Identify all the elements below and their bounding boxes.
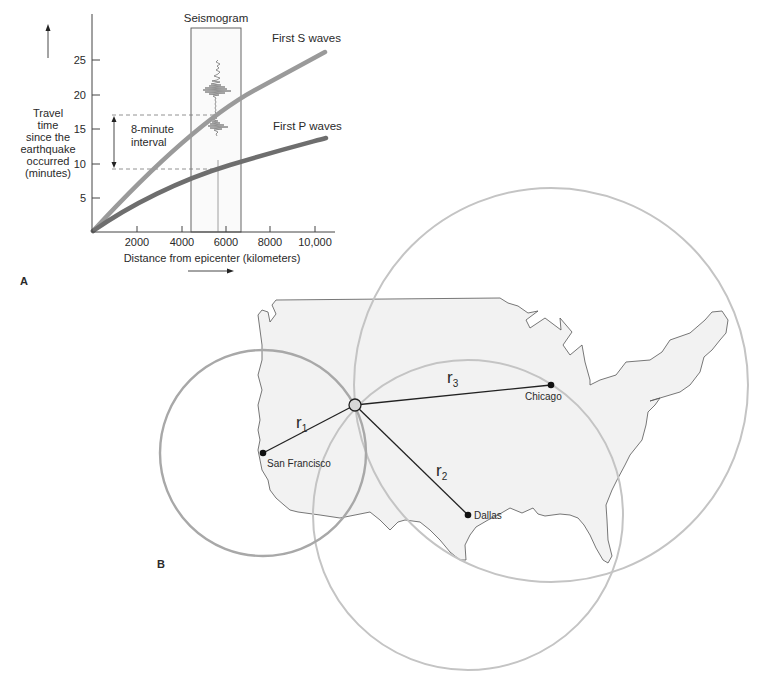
arrow-down-icon xyxy=(112,162,117,168)
y-tick-label: 20 xyxy=(74,89,86,101)
s-wave-label: First S waves xyxy=(272,32,341,44)
x-tick-label: 8000 xyxy=(258,236,282,248)
chicago-label: Chicago xyxy=(525,391,562,402)
figure-canvas: Seismogram 8-minute interval First S wav… xyxy=(0,0,762,688)
p-wave-label: First P waves xyxy=(273,120,342,132)
y-tick-label: 15 xyxy=(74,123,86,135)
arrow-up-icon xyxy=(112,116,117,122)
svg-text:Travel: Travel xyxy=(33,107,63,119)
us-map-outline xyxy=(258,298,728,563)
svg-text:occurred: occurred xyxy=(27,155,70,167)
san-francisco-label: San Francisco xyxy=(267,458,331,469)
svg-text:since the: since the xyxy=(26,131,70,143)
interval-label-line2: interval xyxy=(131,136,166,148)
y-axis-label: Travel time since the earthquake occurre… xyxy=(20,107,75,179)
panel-b-label: B xyxy=(157,558,165,570)
x-axis-label: Distance from epicenter (kilometers) xyxy=(124,252,301,264)
svg-text:(minutes): (minutes) xyxy=(25,167,71,179)
y-ticks: 5 10 15 20 25 xyxy=(74,54,100,204)
x-tick-label: 4000 xyxy=(170,236,194,248)
svg-text:time: time xyxy=(38,119,59,131)
y-tick-label: 25 xyxy=(74,54,86,66)
san-francisco-dot xyxy=(260,450,267,457)
dallas-dot xyxy=(465,512,472,519)
svg-text:earthquake: earthquake xyxy=(20,143,75,155)
y-tick-label: 10 xyxy=(74,158,86,170)
dallas-label: Dallas xyxy=(474,510,502,521)
epicenter-marker xyxy=(349,399,361,411)
panel-a-label: A xyxy=(20,275,28,287)
x-tick-label: 2000 xyxy=(125,236,149,248)
x-tick-label: 6000 xyxy=(214,236,238,248)
seismogram-label: Seismogram xyxy=(184,12,249,24)
interval-label-line1: 8-minute xyxy=(131,123,174,135)
chicago-dot xyxy=(548,382,555,389)
arrow-right-icon xyxy=(227,269,234,274)
travel-time-chart: Seismogram 8-minute interval First S wav… xyxy=(20,12,342,287)
x-tick-label: 10,000 xyxy=(298,236,332,248)
y-tick-label: 5 xyxy=(80,192,86,204)
arrow-up-icon xyxy=(46,24,51,31)
